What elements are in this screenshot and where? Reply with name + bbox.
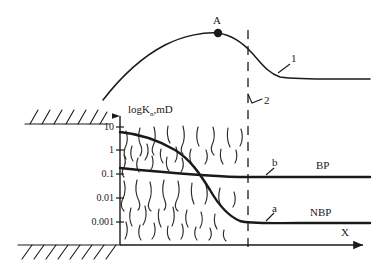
x-axis-label: X xyxy=(341,227,349,238)
curve-1-upper-profile xyxy=(103,33,370,100)
y-tick-label-1: 1 xyxy=(84,145,114,155)
region-label-bp: BP xyxy=(316,160,329,171)
region-label-nbp: NBP xyxy=(310,207,331,218)
curve-b-label: b xyxy=(272,157,278,168)
bottom-hatched-boundary xyxy=(18,245,120,259)
diagram-canvas xyxy=(0,0,381,272)
point-a-label: A xyxy=(213,15,221,26)
y-axis-title-text: logK xyxy=(128,103,150,115)
y-axis xyxy=(116,116,124,245)
boundary-line-2-label: 2 xyxy=(264,95,270,106)
curve-1-label: 1 xyxy=(291,53,297,64)
y-tick-label-0.1: 0.1 xyxy=(78,169,114,179)
y-tick-label-0.001: 0.001 xyxy=(66,217,114,227)
y-tick-label-0.01: 0.01 xyxy=(72,193,114,203)
curve-b-bp xyxy=(120,168,370,177)
y-axis-title: logKn,mD xyxy=(128,104,173,118)
y-tick-label-10: 10 xyxy=(84,122,114,132)
permeability-profile-diagram: logKn,mD 10 1 0.1 0.01 0.001 A 1 2 b a B… xyxy=(0,0,381,272)
curve-a-label: a xyxy=(272,203,277,214)
fracture-texture-region xyxy=(121,126,242,241)
y-axis-unit: ,mD xyxy=(154,103,173,115)
point-a-marker xyxy=(214,29,222,37)
